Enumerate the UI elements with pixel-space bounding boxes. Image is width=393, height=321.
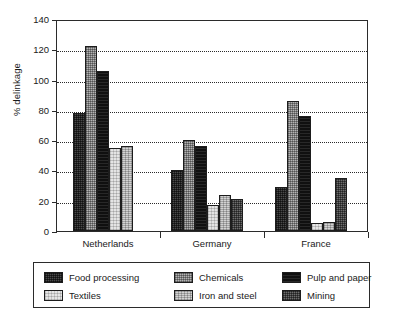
bar-group — [265, 21, 369, 231]
x-category-label: Germany — [160, 238, 264, 249]
bar — [299, 116, 311, 231]
y-tick-label: 120 — [23, 45, 49, 55]
legend-label: Mining — [307, 290, 335, 301]
bar — [323, 222, 335, 231]
y-tick-label: 0 — [23, 227, 49, 237]
bar — [73, 113, 85, 231]
bar — [287, 101, 299, 231]
x-category-label: France — [264, 238, 368, 249]
bar — [231, 199, 243, 231]
x-tick-mark — [368, 232, 369, 238]
bar — [195, 146, 207, 231]
bar-chart: % delinkage 020406080100120140 Netherlan… — [0, 0, 393, 321]
legend-label: Iron and steel — [199, 290, 257, 301]
legend-swatch — [44, 290, 63, 301]
plot-area — [56, 20, 368, 232]
legend-swatch — [282, 272, 301, 283]
bar — [311, 223, 323, 231]
y-tick-label: 100 — [23, 76, 49, 86]
bar — [85, 46, 97, 231]
y-tick-label: 20 — [23, 197, 49, 207]
bar — [109, 148, 121, 231]
bar — [219, 195, 231, 231]
bar — [207, 205, 219, 231]
bars-layer — [57, 21, 367, 231]
bar-group — [161, 21, 265, 231]
y-axis-label: % delinkage — [11, 42, 22, 138]
y-tick-label: 80 — [23, 106, 49, 116]
legend-swatch — [44, 272, 63, 283]
legend-label: Chemicals — [199, 272, 243, 283]
legend-label: Textiles — [69, 290, 101, 301]
legend-item: Chemicals — [174, 271, 243, 284]
bar — [121, 146, 133, 231]
legend-swatch — [174, 290, 193, 301]
legend-item: Food processing — [44, 271, 139, 284]
bar-group — [57, 21, 161, 231]
x-category-label: Netherlands — [56, 238, 160, 249]
legend-item: Iron and steel — [174, 289, 257, 302]
bar — [171, 170, 183, 231]
y-tick-label: 40 — [23, 166, 49, 176]
chart-legend: Food processingChemicalsPulp and paperTe… — [33, 262, 370, 308]
y-tick-label: 140 — [23, 15, 49, 25]
legend-item: Pulp and paper — [282, 271, 371, 284]
legend-label: Pulp and paper — [307, 272, 371, 283]
legend-item: Mining — [282, 289, 335, 302]
legend-label: Food processing — [69, 272, 139, 283]
legend-swatch — [174, 272, 193, 283]
bar — [275, 187, 287, 231]
bar — [335, 178, 347, 231]
y-tick-label: 60 — [23, 136, 49, 146]
bar — [97, 71, 109, 232]
legend-swatch — [282, 290, 301, 301]
legend-item: Textiles — [44, 289, 101, 302]
bar — [183, 140, 195, 231]
